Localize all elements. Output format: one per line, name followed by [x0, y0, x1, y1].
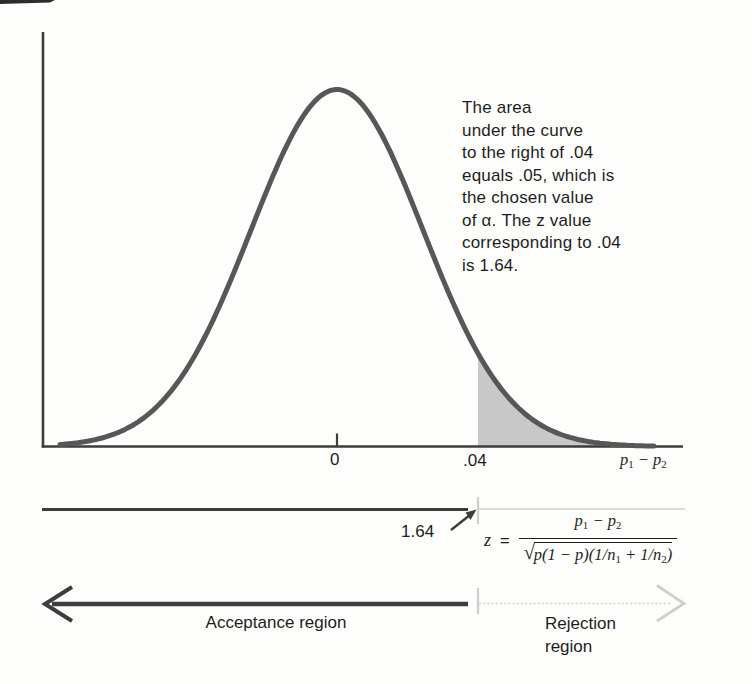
minus-sign: − — [638, 450, 649, 469]
radicand-part: + 1/n — [621, 545, 661, 564]
x-tick-label-zero: 0 — [330, 450, 339, 470]
z-critical-value-label: 1.64 — [401, 522, 434, 542]
z-formula: z = p1 − p2 √p(1 − p)(1/n1 + 1/n2) — [484, 511, 677, 571]
formula-fraction: p1 − p2 √p(1 − p)(1/n1 + 1/n2) — [519, 511, 678, 571]
x-tick-label-critical: .04 — [463, 451, 487, 471]
p2-subscript: 2 — [661, 458, 666, 470]
radicand-part: ) — [667, 545, 673, 564]
formula-numerator: p1 − p2 — [571, 511, 626, 538]
p1-subscript: 1 — [628, 458, 633, 470]
z-symbol: z — [484, 530, 491, 551]
annotation-line: under the curve — [462, 120, 677, 143]
rejection-label-line2: region — [545, 636, 616, 659]
x-axis-variable-label: p1 − p2 — [620, 450, 667, 470]
p1-symbol: p — [620, 450, 628, 469]
p1-subscript: 1 — [583, 519, 588, 531]
equals-sign: = — [500, 531, 510, 550]
annotation-paragraph: The area under the curve to the right of… — [462, 97, 677, 277]
p1-symbol: p — [575, 511, 583, 530]
z-pointer-arrow-shaft — [451, 515, 470, 530]
p2-subscript: 2 — [616, 519, 621, 531]
acceptance-region-label: Acceptance region — [178, 613, 374, 633]
annotation-line: the chosen value — [462, 187, 677, 210]
annotation-line: The area — [462, 97, 677, 120]
radicand-part: p(1 − p)(1/n — [534, 545, 616, 564]
annotation-line: corresponding to .04 — [462, 232, 677, 255]
scan-artifact — [0, 0, 55, 4]
formula-denominator: √p(1 − p)(1/n1 + 1/n2) — [519, 538, 678, 570]
annotation-line: of α. The z value — [462, 210, 677, 233]
rejection-label-line1: Rejection — [545, 613, 616, 636]
textbook-figure-page: The area under the curve to the right of… — [0, 0, 752, 684]
minus-sign: − — [592, 511, 603, 530]
annotation-line: equals .05, which is — [462, 165, 677, 188]
rejection-region-label: Rejection region — [545, 613, 616, 658]
radicand: p(1 − p)(1/n1 + 1/n2) — [534, 542, 673, 570]
annotation-line: is 1.64. — [462, 255, 677, 278]
annotation-line: to the right of .04 — [462, 142, 677, 165]
p2-symbol: p — [608, 511, 616, 530]
